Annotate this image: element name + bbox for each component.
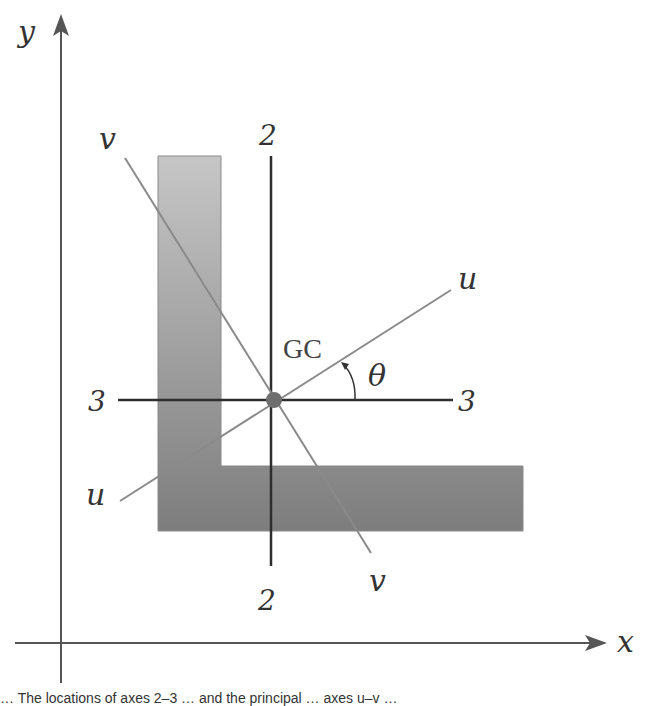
angle-section-shape xyxy=(158,156,523,531)
axis-2-top-label: 2 xyxy=(258,119,277,152)
u-axis-start-label: u xyxy=(86,477,105,512)
x-axis-label: x xyxy=(617,624,634,659)
diagram-canvas: y x 2 2 3 3 u u v v GC θ xyxy=(0,0,657,706)
axis-3-right-label: 3 xyxy=(458,385,476,418)
axis-2-bottom-label: 2 xyxy=(257,584,276,617)
y-axis-label: y xyxy=(16,14,36,49)
centroid-label: GC xyxy=(283,333,322,364)
axis-3-left-label: 3 xyxy=(88,385,106,418)
figure-caption: … The locations of axes 2–3 … and the pr… xyxy=(0,690,657,706)
u-axis-end-label: u xyxy=(458,261,477,296)
theta-label: θ xyxy=(368,358,386,393)
v-axis-start-label: v xyxy=(99,121,116,156)
centroid-dot xyxy=(266,392,282,408)
v-axis-end-label: v xyxy=(369,563,386,598)
